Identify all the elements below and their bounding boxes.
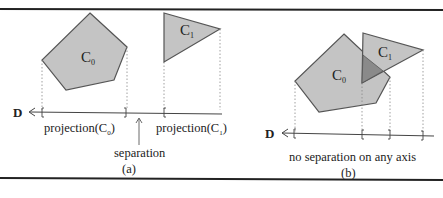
axis-line: [282, 133, 434, 136]
no-separation-label: no separation on any axis: [289, 150, 416, 164]
bottom-rule: [0, 178, 443, 180]
panel-b: C0 C1 D no separation on any axis (b): [265, 33, 434, 180]
panel-a: C0 C1 D projection(C0) projection(C1) se…: [13, 13, 227, 176]
separation-label: separation: [114, 146, 166, 160]
caption-a: (a): [122, 162, 136, 176]
separating-axis-diagram: C0 C1 D projection(C0) projection(C1) se…: [0, 0, 443, 198]
caption-b: (b): [341, 166, 356, 180]
projection-c1-label: projection(C1): [156, 121, 227, 137]
axis-label: D: [265, 126, 274, 141]
top-rule: [0, 9, 443, 10]
projection-c0-label: projection(C0): [44, 121, 115, 137]
axis-label: D: [13, 105, 22, 120]
